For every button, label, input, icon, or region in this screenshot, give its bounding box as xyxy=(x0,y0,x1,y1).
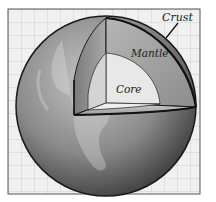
mantle-label: Mantle xyxy=(130,47,169,59)
diagram-canvas: Crust Mantle Core xyxy=(0,0,216,202)
earth-layers-diagram: Crust Mantle Core xyxy=(0,0,216,202)
core-label: Core xyxy=(116,83,142,95)
crust-label: Crust xyxy=(162,11,193,24)
